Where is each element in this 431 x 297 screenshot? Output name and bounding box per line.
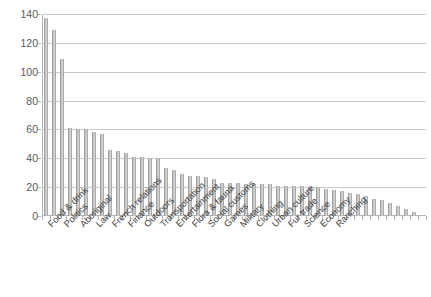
- x-tick-mark: [42, 216, 43, 220]
- y-axis: 020406080100120140: [0, 14, 38, 216]
- y-tick-label: 60: [0, 124, 38, 134]
- plot-area: [42, 14, 426, 216]
- y-tick-label: 80: [0, 96, 38, 106]
- bar[interactable]: [388, 203, 393, 216]
- bar[interactable]: [44, 18, 49, 216]
- x-tick-mark: [370, 216, 371, 220]
- bar[interactable]: [404, 209, 409, 216]
- bar[interactable]: [372, 199, 377, 216]
- y-tick-mark: [38, 187, 41, 188]
- x-tick-mark: [362, 216, 363, 220]
- x-tick-mark: [418, 216, 419, 220]
- bar[interactable]: [396, 206, 401, 216]
- x-tick-mark: [394, 216, 395, 220]
- bars-series: [42, 14, 426, 216]
- y-tick-label: 100: [0, 67, 38, 77]
- x-tick-mark: [410, 216, 411, 220]
- y-tick-mark: [38, 72, 41, 73]
- y-tick-label: 40: [0, 153, 38, 163]
- y-tick-mark: [38, 43, 41, 44]
- bar[interactable]: [380, 200, 385, 216]
- y-tick-label: 120: [0, 38, 38, 48]
- x-tick-mark: [402, 216, 403, 220]
- x-tick-mark: [386, 216, 387, 220]
- x-tick-mark: [378, 216, 379, 220]
- y-tick-mark: [38, 216, 41, 217]
- y-tick-mark: [38, 14, 41, 15]
- bar[interactable]: [116, 151, 121, 216]
- bar[interactable]: [52, 30, 57, 216]
- y-tick-label: 20: [0, 182, 38, 192]
- bar[interactable]: [60, 59, 65, 216]
- y-tick-mark: [38, 158, 41, 159]
- x-tick-mark: [354, 216, 355, 220]
- bar-chart: 020406080100120140 Food & drinkPoliticsA…: [0, 0, 431, 297]
- x-tick-mark: [426, 216, 427, 220]
- y-tick-label: 0: [0, 211, 38, 221]
- y-tick-mark: [38, 129, 41, 130]
- y-tick-mark: [38, 101, 41, 102]
- bar[interactable]: [108, 150, 113, 216]
- y-tick-label: 140: [0, 9, 38, 19]
